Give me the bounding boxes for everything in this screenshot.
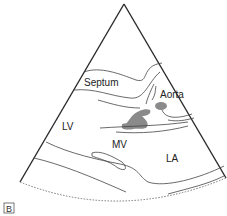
lvot-line — [98, 100, 140, 108]
posterior-wall-outer — [34, 158, 126, 192]
label-septum: Septum — [84, 77, 118, 88]
aortic-valve-leaflet — [155, 102, 167, 110]
aorta-wall-left — [146, 84, 154, 104]
la-posterior-wall — [168, 176, 224, 194]
panel-label: B — [6, 204, 12, 214]
posterior-wall-inner — [46, 142, 224, 184]
label-aorta: Aorta — [160, 89, 184, 100]
sector-arc — [20, 178, 226, 201]
la-roof-line — [168, 118, 194, 121]
echo-diagram: Septum Aorta LV MV LA B — [0, 0, 227, 216]
aorta-wall-inner — [152, 86, 156, 100]
label-lv: LV — [62, 121, 74, 132]
label-la: LA — [166, 153, 179, 164]
label-mv: MV — [112, 139, 127, 150]
posterior-leaflet — [92, 152, 125, 169]
